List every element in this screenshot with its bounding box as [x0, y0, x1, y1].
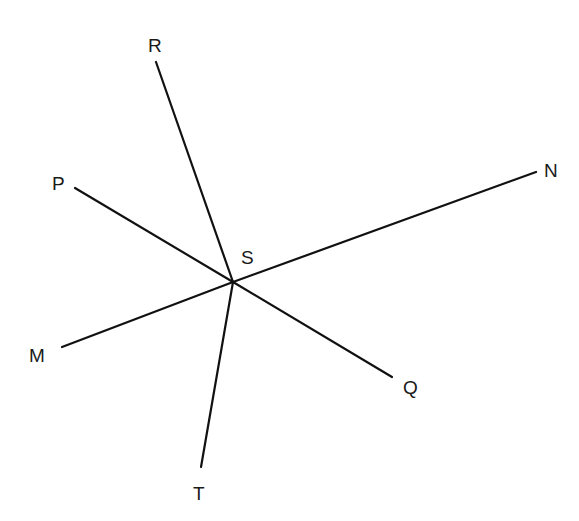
ray-sr — [156, 62, 233, 282]
ray-sq — [233, 282, 392, 377]
ray-sn — [233, 172, 536, 282]
ray-st — [201, 282, 233, 467]
point-label-m: M — [29, 345, 45, 366]
ray-sm — [62, 282, 233, 347]
point-label-p: P — [52, 173, 65, 194]
diagram-canvas: RPNMQT S — [0, 0, 579, 521]
labels-group: RPNMQT — [29, 35, 558, 504]
point-label-r: R — [148, 35, 162, 56]
point-label-s: S — [241, 247, 254, 268]
point-label-t: T — [193, 483, 205, 504]
ray-sp — [75, 188, 233, 282]
rays-group — [62, 62, 536, 467]
point-label-n: N — [544, 160, 558, 181]
point-label-q: Q — [403, 377, 418, 398]
